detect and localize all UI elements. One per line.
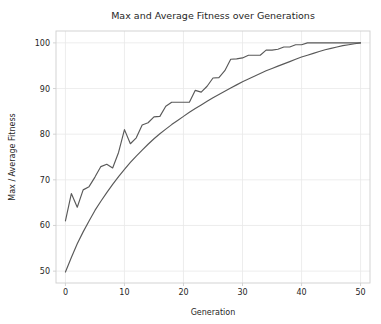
x-tick-label: 40 xyxy=(296,288,306,297)
x-tick-label: 50 xyxy=(355,288,365,297)
y-tick-label: 50 xyxy=(40,267,50,276)
y-tick-label: 60 xyxy=(40,221,50,230)
y-tick-label: 100 xyxy=(35,39,50,48)
chart-figure: 01020304050 5060708090100 Max and Averag… xyxy=(0,0,381,324)
plot-background xyxy=(56,31,370,283)
x-tick-label: 30 xyxy=(237,288,247,297)
y-tick-label: 90 xyxy=(40,85,50,94)
y-tick-label: 70 xyxy=(40,176,50,185)
x-tick-label: 0 xyxy=(63,288,68,297)
x-tick-label: 20 xyxy=(178,288,188,297)
chart-canvas: 01020304050 5060708090100 Max and Averag… xyxy=(0,0,381,324)
x-tick-label: 10 xyxy=(119,288,129,297)
chart-title: Max and Average Fitness over Generations xyxy=(111,10,315,21)
x-axis-label: Generation xyxy=(191,308,236,317)
y-axis-label: Max / Average Fitness xyxy=(8,113,17,200)
y-tick-label: 80 xyxy=(40,130,50,139)
